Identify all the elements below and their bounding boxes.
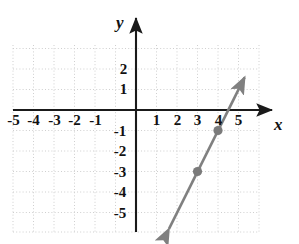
y-tick-label--4: -4	[110, 185, 130, 200]
y-tick-label--5: -5	[110, 206, 130, 221]
x-tick-label--5: -5	[5, 113, 22, 128]
x-tick-label-4: 4	[213, 113, 224, 128]
y-tick-label--1: -1	[110, 124, 130, 139]
y-tick-label-2: 2	[117, 62, 130, 77]
y-tick-label-1: 1	[117, 82, 130, 97]
x-tick-label--2: -2	[66, 113, 83, 128]
plotted-line	[169, 77, 245, 229]
x-tick-label-3: 3	[192, 113, 203, 128]
y-tick-label--3: -3	[110, 165, 130, 180]
coordinate-plane-figure: -5 -4 -3 -2 -1 1 2 3 4 5 2 1 -1 -2 -3 -4…	[0, 0, 299, 244]
data-point-3--3	[193, 167, 202, 176]
x-tick-label--1: -1	[87, 113, 104, 128]
x-axis-label: x	[274, 116, 283, 133]
y-axis-label: y	[116, 14, 124, 31]
y-tick-label--2: -2	[110, 144, 130, 159]
x-tick-label-1: 1	[151, 113, 162, 128]
x-tick-label-5: 5	[233, 113, 244, 128]
graph-canvas	[0, 0, 299, 244]
x-tick-label--4: -4	[25, 113, 42, 128]
x-tick-label--3: -3	[46, 113, 63, 128]
line-segment	[169, 77, 245, 229]
x-tick-label-2: 2	[172, 113, 183, 128]
